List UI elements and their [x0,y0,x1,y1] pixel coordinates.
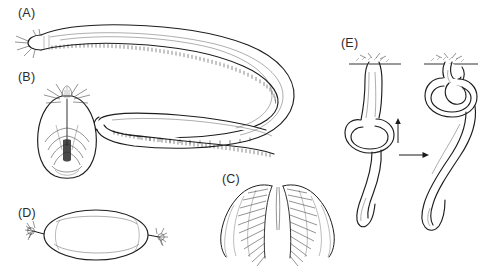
figure-canvas: (A) (B) [0,0,498,277]
tooth-mass-shading [63,139,71,161]
panel-b-label: (B) [18,70,35,84]
panel-c-label: (C) [222,172,240,186]
knot-loop-inner-1 [351,126,388,149]
panel-d-label: (D) [18,206,36,220]
figure-plate: (A) (B) [0,0,498,277]
panel-a-label: (A) [18,6,35,20]
egg-outline [44,210,148,260]
panel-e-label: (E) [341,36,358,50]
